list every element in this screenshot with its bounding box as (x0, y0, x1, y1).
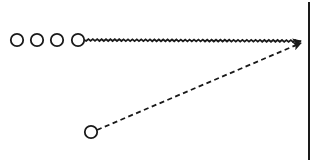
wavy-arrow (84, 39, 301, 42)
circle-row (11, 34, 84, 46)
dashed-arrow (97, 43, 301, 130)
row-circle-2 (31, 34, 43, 46)
row-circle-3 (51, 34, 63, 46)
row-circle-4 (72, 34, 84, 46)
diagram-canvas (0, 0, 319, 168)
lower-source-circle (85, 126, 97, 138)
row-circle-1 (11, 34, 23, 46)
